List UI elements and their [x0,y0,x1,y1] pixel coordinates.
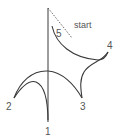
stroke-order-diagram: start 5 4 3 2 1 [0,0,122,140]
label-point-1: 1 [45,126,51,137]
curve-4-to-3 [81,52,108,98]
label-point-4: 4 [107,40,113,51]
label-point-2: 2 [6,101,12,112]
label-start: start [74,20,92,30]
label-point-3: 3 [80,101,86,112]
label-point-5: 5 [56,28,62,39]
